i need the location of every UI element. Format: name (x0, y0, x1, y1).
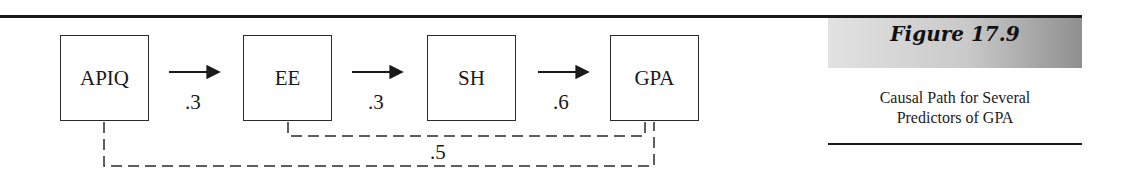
coef-sh-gpa: .6 (553, 90, 569, 115)
coef-apiq-ee: .3 (185, 90, 201, 115)
figure-caption: Causal Path for Several Predictors of GP… (828, 88, 1082, 128)
caption-line-1: Causal Path for Several (828, 88, 1082, 108)
figure-label: Figure 17.9 (828, 22, 1082, 46)
caption-rule (828, 143, 1082, 145)
coef-ee-sh: .3 (368, 90, 384, 115)
coef-apiq-gpa: .5 (430, 140, 446, 165)
caption-line-2: Predictors of GPA (828, 108, 1082, 128)
